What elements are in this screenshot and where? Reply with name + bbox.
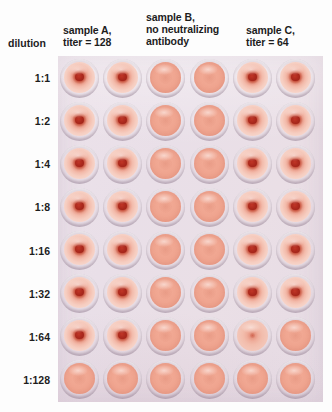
well-shield-pattern — [64, 363, 95, 394]
well-1-2-col1 — [60, 102, 99, 141]
dilution-label-row-5: 1:16 — [0, 245, 50, 257]
well-1-64-col1 — [60, 317, 99, 356]
well-1-8-col3 — [146, 188, 185, 227]
dilution-label-row-4: 1:8 — [0, 201, 50, 213]
well-1-16-col4 — [190, 231, 229, 270]
well-button-pellet — [64, 105, 95, 136]
well-1-32-col3 — [146, 274, 185, 313]
well-shield-pattern — [237, 363, 268, 394]
well-shield-pattern — [194, 320, 225, 351]
well-shield-pattern — [280, 320, 311, 351]
well-1-128-col4 — [190, 360, 229, 399]
well-button-pellet — [64, 277, 95, 308]
well-1-8-col1 — [60, 188, 99, 227]
dilution-label-row-7: 1:64 — [0, 331, 50, 343]
well-1-64-col3 — [146, 317, 185, 356]
well-1-4-col1 — [60, 145, 99, 184]
well-1-64-col4 — [190, 317, 229, 356]
well-1-2-col6 — [276, 102, 315, 141]
well-1-32-col6 — [276, 274, 315, 313]
well-1-128-col2 — [103, 360, 142, 399]
well-shield-pattern — [194, 277, 225, 308]
well-1-8-col5 — [233, 188, 272, 227]
well-1-32-col2 — [103, 274, 142, 313]
well-button-pellet — [107, 105, 138, 136]
well-1-64-col5 — [233, 317, 272, 356]
well-1-1-col1 — [60, 59, 99, 98]
well-1-32-col4 — [190, 274, 229, 313]
well-weak-button — [237, 320, 268, 351]
well-shield-pattern — [280, 363, 311, 394]
well-1-2-col4 — [190, 102, 229, 141]
well-1-128-col1 — [60, 360, 99, 399]
well-1-16-col6 — [276, 231, 315, 270]
well-shield-pattern — [194, 105, 225, 136]
well-button-pellet — [237, 62, 268, 93]
well-1-4-col4 — [190, 145, 229, 184]
well-shield-pattern — [194, 363, 225, 394]
well-1-8-col4 — [190, 188, 229, 227]
well-button-pellet — [64, 62, 95, 93]
well-shield-pattern — [194, 191, 225, 222]
dilution-label-row-1: 1:1 — [0, 72, 50, 84]
well-1-16-col2 — [103, 231, 142, 270]
column-header-sample-b: sample B, no neutralizing antibody — [146, 11, 242, 48]
well-1-8-col6 — [276, 188, 315, 227]
well-1-64-col2 — [103, 317, 142, 356]
well-1-128-col6 — [276, 360, 315, 399]
well-button-pellet — [64, 234, 95, 265]
well-1-128-col3 — [146, 360, 185, 399]
well-1-4-col3 — [146, 145, 185, 184]
well-shield-pattern — [194, 234, 225, 265]
well-1-32-col1 — [60, 274, 99, 313]
well-button-pellet — [64, 191, 95, 222]
well-1-2-col3 — [146, 102, 185, 141]
well-button-pellet — [237, 148, 268, 179]
well-shield-pattern — [194, 62, 225, 93]
well-button-pellet — [64, 320, 95, 351]
well-shield-pattern — [107, 363, 138, 394]
well-button-pellet — [280, 105, 311, 136]
well-shield-pattern — [194, 148, 225, 179]
well-1-1-col6 — [276, 59, 315, 98]
well-button-pellet — [280, 148, 311, 179]
well-button-pellet — [107, 320, 138, 351]
dilution-label-row-2: 1:2 — [0, 115, 50, 127]
dilution-label-row-3: 1:4 — [0, 158, 50, 170]
well-button-pellet — [237, 234, 268, 265]
well-button-pellet — [237, 277, 268, 308]
column-header-sample-c: sample C, titer = 64 — [246, 24, 326, 48]
well-1-1-col5 — [233, 59, 272, 98]
figure-header: dilution sample A, titer = 128 sample B,… — [0, 0, 332, 56]
well-1-1-col4 — [190, 59, 229, 98]
well-button-pellet — [280, 62, 311, 93]
well-1-1-col2 — [103, 59, 142, 98]
well-button-pellet — [280, 234, 311, 265]
well-button-pellet — [280, 191, 311, 222]
well-1-16-col3 — [146, 231, 185, 270]
well-1-16-col1 — [60, 231, 99, 270]
well-1-32-col5 — [233, 274, 272, 313]
well-1-2-col2 — [103, 102, 142, 141]
well-1-1-col3 — [146, 59, 185, 98]
well-button-pellet — [237, 191, 268, 222]
dilution-label-row-8: 1:128 — [0, 374, 50, 386]
well-1-8-col2 — [103, 188, 142, 227]
dilution-label-row-6: 1:32 — [0, 288, 50, 300]
well-button-pellet — [107, 191, 138, 222]
well-1-2-col5 — [233, 102, 272, 141]
well-1-4-col6 — [276, 145, 315, 184]
dilution-axis-label: dilution — [8, 37, 46, 49]
well-1-16-col5 — [233, 231, 272, 270]
well-button-pellet — [64, 148, 95, 179]
well-button-pellet — [107, 234, 138, 265]
well-button-pellet — [280, 277, 311, 308]
well-button-pellet — [107, 62, 138, 93]
well-1-64-col6 — [276, 317, 315, 356]
well-button-pellet — [237, 105, 268, 136]
well-1-4-col2 — [103, 145, 142, 184]
column-header-sample-a: sample A, titer = 128 — [63, 24, 149, 48]
microtiter-plate — [58, 56, 323, 402]
well-button-pellet — [107, 277, 138, 308]
well-1-4-col5 — [233, 145, 272, 184]
